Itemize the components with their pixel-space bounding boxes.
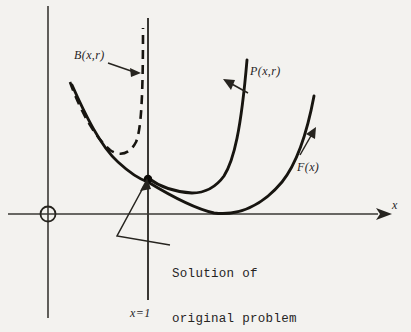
leader-line-solution: [117, 186, 170, 245]
label-barrier-curve: B(x,r): [74, 48, 105, 63]
label-constraint-x-equals-1: x=1: [130, 306, 151, 321]
leader-line-barrier: [108, 63, 134, 72]
x-axis-arrowhead: [376, 208, 392, 220]
penalty-function-figure: B(x,r) P(x,r) F(x) x=1 x Solution of ori…: [0, 0, 411, 332]
leader-arrowhead-penalty: [223, 79, 235, 90]
solution-caption-line-1: Solution of: [172, 267, 297, 282]
curve-b-of-x-r: [70, 28, 143, 154]
label-solution-caption: Solution of original problem: [172, 236, 297, 332]
label-objective-curve: F(x): [297, 160, 319, 175]
leader-arrowhead-barrier: [130, 68, 141, 77]
label-penalty-curve: P(x,r): [250, 64, 281, 79]
label-x-axis: x: [392, 198, 398, 213]
solution-caption-line-2: original problem: [172, 312, 297, 327]
